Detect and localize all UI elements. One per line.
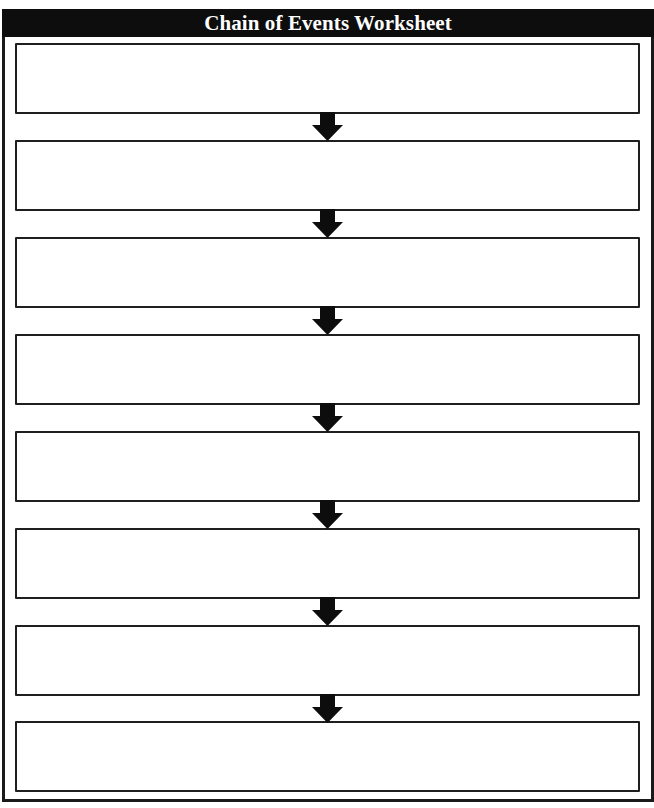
down-arrow-icon (312, 306, 343, 335)
event-box-8[interactable] (15, 721, 640, 792)
event-box-4[interactable] (15, 334, 640, 405)
down-arrow-icon (312, 112, 343, 141)
event-box-1[interactable] (15, 43, 640, 114)
event-box-6[interactable] (15, 528, 640, 599)
down-arrow-icon (312, 500, 343, 529)
event-box-7[interactable] (15, 625, 640, 696)
down-arrow-icon (312, 597, 343, 626)
event-box-3[interactable] (15, 237, 640, 308)
event-box-5[interactable] (15, 431, 640, 502)
down-arrow-icon (312, 694, 343, 723)
cropped-top-edge (0, 0, 654, 6)
down-arrow-icon (312, 209, 343, 238)
down-arrow-icon (312, 403, 343, 432)
worksheet-title: Chain of Events Worksheet (204, 11, 452, 35)
event-box-2[interactable] (15, 140, 640, 211)
worksheet-title-bar: Chain of Events Worksheet (2, 9, 654, 37)
